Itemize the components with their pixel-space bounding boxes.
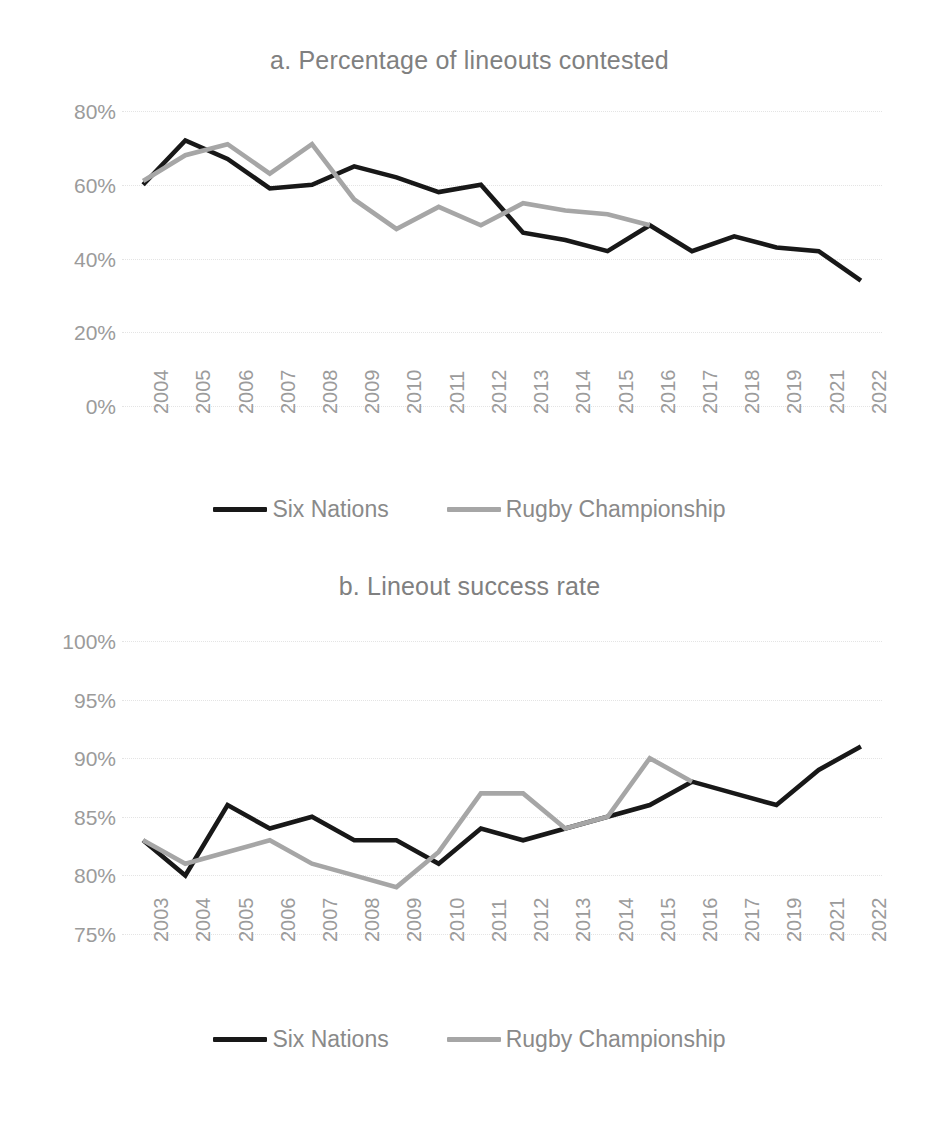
x-axis-tick-label: 2012	[489, 370, 509, 415]
y-axis-tick-label: 95%	[30, 689, 116, 710]
chart-a-panel: a. Percentage of lineouts contested 80%6…	[0, 0, 939, 560]
x-axis-tick-label: 2009	[362, 370, 382, 415]
chart-b-y-axis: 100%95%90%85%80%75%	[30, 641, 116, 934]
y-axis-tick-label: 90%	[30, 748, 116, 769]
chart-b-panel: b. Lineout success rate 100%95%90%85%80%…	[0, 560, 939, 1100]
x-axis-tick-label: 2005	[193, 370, 213, 415]
x-axis-tick-label: 2010	[404, 370, 424, 415]
x-axis-tick-label: 2008	[362, 898, 382, 943]
x-axis-tick-label: 2014	[573, 370, 593, 415]
y-axis-tick-label: 40%	[30, 248, 116, 269]
chart-a-series-layer	[122, 111, 882, 406]
x-axis-tick-label: 2010	[447, 898, 467, 943]
chart-a-plot-area	[122, 111, 882, 406]
x-axis-tick-label: 2022	[869, 370, 889, 415]
chart-b-series-layer	[122, 641, 882, 934]
legend-label: Rugby Championship	[506, 498, 726, 521]
series-line-rugby-championship	[143, 758, 692, 887]
y-axis-tick-label: 100%	[30, 631, 116, 652]
x-axis-tick-label: 2019	[784, 370, 804, 415]
x-axis-tick-label: 2006	[236, 370, 256, 415]
y-axis-tick-label: 0%	[30, 396, 116, 417]
chart-b-plot-area	[122, 641, 882, 934]
x-axis-tick-label: 2009	[404, 898, 424, 943]
x-axis-tick-label: 2013	[573, 898, 593, 943]
legend-entry-rugby-championship[interactable]: Rugby Championship	[447, 498, 726, 521]
legend-line-swatch	[213, 1037, 267, 1042]
y-axis-tick-label: 80%	[30, 865, 116, 886]
x-axis-tick-label: 2015	[616, 370, 636, 415]
y-axis-tick-label: 80%	[30, 101, 116, 122]
x-axis-tick-label: 2004	[193, 898, 213, 943]
x-axis-tick-label: 2004	[151, 370, 171, 415]
chart-b-title: b. Lineout success rate	[0, 560, 939, 601]
y-axis-tick-label: 75%	[30, 924, 116, 945]
x-axis-tick-label: 2005	[236, 898, 256, 943]
x-axis-tick-label: 2006	[278, 898, 298, 943]
x-axis-tick-label: 2011	[447, 371, 467, 414]
x-axis-tick-label: 2017	[742, 898, 762, 943]
y-axis-tick-label: 60%	[30, 174, 116, 195]
x-axis-tick-label: 2017	[700, 370, 720, 415]
chart-a-legend: Six NationsRugby Championship	[0, 498, 939, 521]
x-axis-tick-label: 2022	[869, 898, 889, 943]
y-axis-tick-label: 85%	[30, 806, 116, 827]
legend-label: Rugby Championship	[506, 1028, 726, 1051]
legend-entry-rugby-championship[interactable]: Rugby Championship	[447, 1028, 726, 1051]
x-axis-tick-label: 2012	[531, 898, 551, 943]
x-axis-tick-label: 2011	[489, 899, 509, 942]
legend-line-swatch	[447, 1037, 501, 1042]
x-axis-tick-label: 2021	[827, 370, 847, 415]
legend-label: Six Nations	[272, 1028, 388, 1051]
x-axis-tick-label: 2008	[320, 370, 340, 415]
x-axis-tick-label: 2014	[616, 898, 636, 943]
legend-line-swatch	[447, 507, 501, 512]
x-axis-tick-label: 2015	[658, 898, 678, 943]
x-axis-tick-label: 2016	[700, 898, 720, 943]
x-axis-tick-label: 2016	[658, 370, 678, 415]
legend-line-swatch	[213, 507, 267, 512]
y-axis-tick-label: 20%	[30, 322, 116, 343]
x-axis-tick-label: 2018	[742, 370, 762, 415]
legend-label: Six Nations	[272, 498, 388, 521]
legend-entry-six-nations[interactable]: Six Nations	[213, 1028, 388, 1051]
x-axis-tick-label: 2019	[784, 898, 804, 943]
x-axis-tick-label: 2003	[151, 898, 171, 943]
chart-b-legend: Six NationsRugby Championship	[0, 1028, 939, 1051]
x-axis-tick-label: 2013	[531, 370, 551, 415]
chart-a-title: a. Percentage of lineouts contested	[0, 0, 939, 75]
legend-entry-six-nations[interactable]: Six Nations	[213, 498, 388, 521]
x-axis-tick-label: 2007	[278, 370, 298, 415]
series-line-six-nations	[143, 746, 861, 875]
chart-a-y-axis: 80%60%40%20%0%	[30, 111, 116, 406]
x-axis-tick-label: 2007	[320, 898, 340, 943]
x-axis-tick-label: 2021	[827, 898, 847, 943]
